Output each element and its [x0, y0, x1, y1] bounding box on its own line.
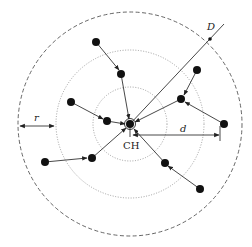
- node: [41, 158, 49, 166]
- cluster-diagram: D r d CH: [0, 0, 252, 247]
- node: [196, 185, 204, 193]
- node: [117, 70, 125, 78]
- cluster-head-node: [126, 120, 134, 128]
- node: [67, 98, 75, 106]
- ring-width-label: r: [34, 112, 40, 123]
- node: [220, 120, 228, 128]
- node: [92, 38, 100, 46]
- line-label-d: D: [206, 21, 215, 32]
- boundary-point-icon: [208, 37, 212, 41]
- member-nodes: [41, 38, 228, 193]
- node: [88, 154, 96, 162]
- node: [161, 159, 169, 167]
- node: [103, 117, 111, 125]
- edges: [45, 42, 224, 189]
- cluster-head-label: CH: [123, 140, 140, 151]
- distance-label: d: [180, 123, 186, 134]
- node: [193, 66, 201, 74]
- node: [177, 95, 185, 103]
